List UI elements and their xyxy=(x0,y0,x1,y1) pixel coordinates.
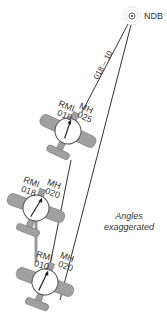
ndb-station-icon xyxy=(123,7,141,25)
caption-line-1: Angles xyxy=(104,211,154,222)
ndb-label: NDB xyxy=(144,12,163,21)
caption-line-2: exaggerated xyxy=(104,222,154,233)
course-label: 018 – 10 xyxy=(92,49,115,81)
diagram-canvas: 018 – 10 xyxy=(0,0,167,321)
caption: Angles exaggerated xyxy=(104,211,154,233)
